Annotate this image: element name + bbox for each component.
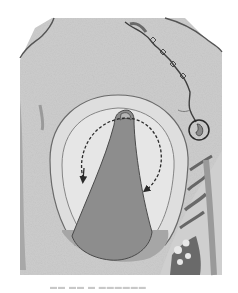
anatomical-illustration <box>0 0 238 293</box>
figure-caption: ▬▬ ▬▬ ▬ ▬▬▬▬▬▬ <box>50 283 190 291</box>
